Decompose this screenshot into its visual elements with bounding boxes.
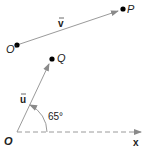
point-p-dot	[120, 6, 125, 11]
label-o-prime: O′	[6, 43, 18, 55]
label-q: Q	[57, 52, 66, 64]
label-angle: 65°	[48, 111, 63, 122]
label-vector-u: u	[20, 94, 26, 105]
vector-diagram: O′ P Q O v u 65° x	[0, 0, 151, 150]
label-x-axis: x	[133, 137, 139, 148]
label-vector-v: v	[58, 18, 64, 29]
angle-arc	[30, 105, 47, 132]
label-o: O	[4, 135, 13, 147]
point-q-dot	[49, 56, 54, 61]
vector-v-arrow	[17, 11, 118, 45]
label-p: P	[127, 3, 135, 15]
